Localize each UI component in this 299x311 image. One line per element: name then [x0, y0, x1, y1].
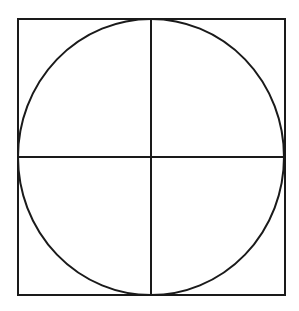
- inscribed-circle-diagram: [0, 0, 299, 311]
